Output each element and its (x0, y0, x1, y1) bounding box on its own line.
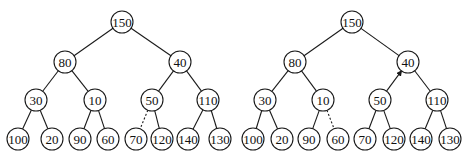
tree-node-70: 70 (125, 128, 147, 150)
edge-m150-m80 (304, 28, 343, 55)
tree-node-60: 60 (327, 128, 349, 150)
edge-m30-m20 (269, 110, 277, 129)
edge-n50-n120 (155, 111, 160, 129)
node-label: 20 (46, 132, 59, 147)
node-label: 140 (411, 132, 431, 147)
tree-node-90: 90 (298, 128, 320, 150)
tree-node-10: 10 (312, 89, 334, 111)
edge-n150-n40 (131, 28, 171, 56)
edge-m10-m90 (313, 110, 320, 128)
tree-node-50: 50 (141, 89, 163, 111)
tree-node-110: 110 (197, 89, 219, 111)
tree-node-120: 120 (151, 128, 173, 150)
edge-n110-n130 (211, 111, 217, 129)
edge-m10-m60 (327, 110, 334, 128)
tree-node-140: 140 (177, 128, 199, 150)
left-tree-edges (23, 28, 217, 129)
tree-node-130: 130 (209, 128, 231, 150)
node-label: 70 (130, 132, 143, 147)
edge-n10-n60 (98, 110, 104, 128)
edge-n80-n10 (72, 71, 88, 92)
edge-m110-m130 (440, 110, 446, 128)
edge-n30-n20 (40, 110, 48, 129)
edge-m150-m40 (361, 28, 399, 55)
edge-m110-m140 (425, 110, 433, 129)
edge-m40-m110 (415, 71, 431, 92)
node-label: 10 (317, 93, 330, 108)
node-label: 80 (59, 55, 72, 70)
edge-m30-m100 (256, 111, 262, 129)
edge-n150-n80 (74, 28, 113, 55)
node-label: 40 (174, 55, 187, 70)
tree-node-100: 100 (7, 128, 29, 150)
node-label: 150 (342, 15, 362, 30)
edge-n40-n50 (159, 71, 174, 91)
tree-node-110: 110 (426, 89, 448, 111)
tree-node-50: 50 (369, 89, 391, 111)
edge-n30-n100 (23, 110, 32, 129)
tree-node-140: 140 (410, 128, 432, 150)
node-label: 90 (74, 132, 87, 147)
node-label: 130 (440, 132, 460, 147)
tree-node-80: 80 (284, 51, 306, 73)
node-label: 110 (427, 93, 446, 108)
tree-node-100: 100 (242, 128, 264, 150)
node-label: 100 (8, 132, 28, 147)
tree-node-20: 20 (41, 128, 63, 150)
edge-m80-m10 (302, 71, 317, 91)
tree-node-60: 60 (97, 128, 119, 150)
node-label: 140 (178, 132, 198, 147)
node-label: 70 (359, 132, 372, 147)
tree-node-30: 30 (254, 89, 276, 111)
node-label: 20 (276, 132, 289, 147)
node-label: 110 (198, 93, 217, 108)
right-tree-edges (256, 28, 446, 129)
node-label: 130 (210, 132, 230, 147)
tree-node-40: 40 (397, 51, 419, 73)
tree-node-130: 130 (439, 128, 461, 150)
tree-node-20: 20 (271, 128, 293, 150)
edge-m40-m50 (387, 71, 402, 91)
tree-node-150: 150 (341, 11, 363, 33)
node-label: 50 (146, 93, 159, 108)
tree-node-10: 10 (84, 89, 106, 111)
node-label: 50 (374, 93, 387, 108)
node-label: 10 (89, 93, 102, 108)
edge-m80-m30 (272, 71, 288, 92)
right-tree-nodes: 150804030105011010020906070120140130 (242, 11, 461, 150)
edge-n40-n110 (187, 71, 202, 91)
node-label: 30 (259, 93, 272, 108)
edge-m50-m120 (384, 110, 391, 128)
node-label: 120 (384, 132, 404, 147)
tree-diagram-canvas: 1508040301050110100209060701201401301508… (0, 0, 471, 161)
tree-node-40: 40 (169, 51, 191, 73)
tree-node-150: 150 (111, 11, 133, 33)
edges-layer (23, 28, 447, 129)
node-label: 90 (303, 132, 316, 147)
tree-node-70: 70 (354, 128, 376, 150)
edge-n50-n70 (140, 110, 148, 129)
node-label: 100 (243, 132, 263, 147)
tree-node-90: 90 (69, 128, 91, 150)
node-label: 30 (30, 93, 43, 108)
left-tree-nodes: 150804030105011010020906070120140130 (7, 11, 231, 150)
node-label: 80 (289, 55, 302, 70)
edge-n80-n30 (43, 71, 59, 92)
tree-node-30: 30 (25, 89, 47, 111)
node-label: 60 (102, 132, 115, 147)
node-label: 60 (332, 132, 345, 147)
edge-m50-m70 (369, 110, 376, 128)
nodes-layer: 1508040301050110100209060701201401301508… (7, 11, 461, 150)
tree-node-80: 80 (54, 51, 76, 73)
tree-node-120: 120 (383, 128, 405, 150)
edge-n10-n90 (84, 110, 91, 128)
node-label: 120 (152, 132, 172, 147)
node-label: 40 (402, 55, 415, 70)
node-label: 150 (112, 15, 132, 30)
edge-n110-n140 (193, 110, 203, 129)
